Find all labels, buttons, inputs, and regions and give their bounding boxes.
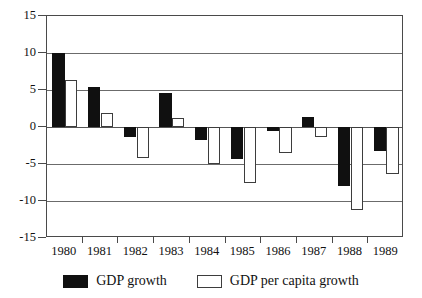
bar-1980-series1 bbox=[65, 80, 77, 127]
bar-1986-series1 bbox=[279, 127, 291, 153]
bar-1985-series0 bbox=[231, 127, 243, 159]
x-tick-1985 bbox=[225, 237, 226, 243]
y-tick-15 bbox=[38, 15, 46, 16]
y-axis-label: 5 bbox=[0, 83, 36, 96]
x-tick-1989 bbox=[367, 237, 368, 243]
y-axis-label: -15 bbox=[0, 231, 36, 244]
bar-1984-series0 bbox=[195, 127, 207, 140]
bar-1989-series1 bbox=[386, 127, 398, 174]
legend-entry-0[interactable]: GDP growth bbox=[63, 274, 167, 288]
bar-1984-series1 bbox=[208, 127, 220, 164]
bar-1982-series1 bbox=[137, 127, 149, 158]
bar-1983-series0 bbox=[159, 93, 171, 127]
y-tick-neg5 bbox=[38, 163, 46, 164]
gridline-5 bbox=[47, 90, 402, 91]
legend-swatch-white bbox=[197, 275, 222, 288]
y-tick-0 bbox=[38, 126, 46, 127]
x-tick-1981 bbox=[82, 237, 83, 243]
legend-swatch-black bbox=[63, 275, 88, 288]
y-axis-label: 15 bbox=[0, 9, 36, 22]
x-axis-label-1984: 1984 bbox=[194, 245, 219, 258]
y-tick-10 bbox=[38, 52, 46, 53]
bar-1986-series0 bbox=[267, 127, 279, 131]
x-tick-1986 bbox=[260, 237, 261, 243]
bar-1980-series0 bbox=[52, 53, 64, 127]
x-tick-1988 bbox=[332, 237, 333, 243]
x-axis-label-1986: 1986 bbox=[266, 245, 291, 258]
legend-label: GDP growth bbox=[96, 274, 167, 288]
y-tick-neg15 bbox=[38, 237, 46, 238]
bar-1987-series0 bbox=[302, 117, 314, 127]
x-tick-1983 bbox=[153, 237, 154, 243]
y-tick-neg10 bbox=[38, 200, 46, 201]
x-axis-label-1982: 1982 bbox=[123, 245, 148, 258]
bar-1983-series1 bbox=[172, 118, 184, 127]
x-tick-1987 bbox=[296, 237, 297, 243]
x-axis-label-1989: 1989 bbox=[373, 245, 398, 258]
y-axis-label: 0 bbox=[0, 120, 36, 133]
bar-1988-series1 bbox=[351, 127, 363, 210]
plot-area bbox=[46, 15, 403, 237]
bar-1981-series1 bbox=[101, 113, 113, 127]
y-axis-label: 10 bbox=[0, 46, 36, 59]
bar-1987-series1 bbox=[315, 127, 327, 137]
gridline-10 bbox=[47, 53, 402, 54]
x-axis-label-1988: 1988 bbox=[337, 245, 362, 258]
x-axis-label-1980: 1980 bbox=[51, 245, 76, 258]
y-tick-5 bbox=[38, 89, 46, 90]
bar-1988-series0 bbox=[338, 127, 350, 186]
x-axis-label-1981: 1981 bbox=[87, 245, 112, 258]
y-axis-label: -5 bbox=[0, 157, 36, 170]
x-axis-label-1987: 1987 bbox=[301, 245, 326, 258]
gdp-growth-bar-chart: 151050-5-10-15 1980198119821983198419851… bbox=[0, 0, 422, 298]
legend-entry-1[interactable]: GDP per capita growth bbox=[197, 274, 359, 288]
bar-1982-series0 bbox=[124, 127, 136, 137]
x-tick-1984 bbox=[189, 237, 190, 243]
legend-label: GDP per capita growth bbox=[230, 274, 359, 288]
bar-1985-series1 bbox=[244, 127, 256, 183]
y-axis-label: -10 bbox=[0, 194, 36, 207]
bar-1989-series0 bbox=[374, 127, 386, 151]
x-axis-label-1985: 1985 bbox=[230, 245, 255, 258]
x-tick-1982 bbox=[117, 237, 118, 243]
chart-legend: GDP growthGDP per capita growth bbox=[0, 268, 422, 294]
bar-1981-series0 bbox=[88, 87, 100, 127]
x-axis-label-1983: 1983 bbox=[158, 245, 183, 258]
gridline-neg10 bbox=[47, 201, 402, 202]
